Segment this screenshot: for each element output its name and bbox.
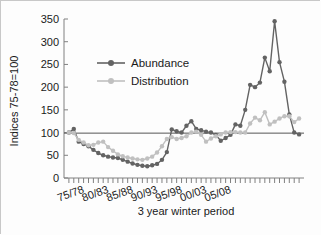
data-point-distribution bbox=[121, 154, 125, 158]
data-point-abundance bbox=[135, 163, 139, 167]
legend-marker-abundance bbox=[108, 60, 114, 66]
data-point-distribution bbox=[189, 130, 193, 134]
data-point-distribution bbox=[130, 156, 134, 160]
data-point-abundance bbox=[145, 164, 149, 168]
data-point-distribution bbox=[155, 150, 159, 154]
data-point-abundance bbox=[130, 161, 134, 165]
data-point-distribution bbox=[204, 139, 208, 143]
data-point-abundance bbox=[106, 154, 110, 158]
data-point-distribution bbox=[72, 131, 76, 135]
data-point-distribution bbox=[282, 114, 286, 118]
data-point-abundance bbox=[111, 155, 115, 159]
data-point-abundance bbox=[204, 129, 208, 133]
data-point-abundance bbox=[72, 127, 76, 131]
data-point-distribution bbox=[199, 133, 203, 137]
y-tick-label: 0 bbox=[53, 172, 59, 184]
data-point-distribution bbox=[76, 138, 80, 142]
y-tick-label: 250 bbox=[41, 58, 59, 70]
data-point-abundance bbox=[199, 128, 203, 132]
data-point-abundance bbox=[253, 85, 257, 89]
y-tick-label: 200 bbox=[41, 81, 59, 93]
data-point-distribution bbox=[277, 116, 281, 120]
y-tick-label: 50 bbox=[47, 149, 59, 161]
data-point-abundance bbox=[268, 69, 272, 73]
data-point-abundance bbox=[96, 151, 100, 155]
data-point-distribution bbox=[111, 149, 115, 153]
data-point-abundance bbox=[258, 80, 262, 84]
data-point-abundance bbox=[292, 130, 296, 134]
data-point-distribution bbox=[258, 118, 262, 122]
y-tick-label: 300 bbox=[41, 36, 59, 48]
data-point-distribution bbox=[81, 140, 85, 144]
data-point-abundance bbox=[223, 136, 227, 140]
data-point-distribution bbox=[170, 135, 174, 139]
data-point-distribution bbox=[272, 119, 276, 123]
data-point-distribution bbox=[145, 156, 149, 160]
data-point-distribution bbox=[228, 130, 232, 134]
data-point-distribution bbox=[91, 143, 95, 147]
y-axis-label: Indices 75-78=100 bbox=[8, 56, 20, 147]
data-point-distribution bbox=[243, 130, 247, 134]
data-point-abundance bbox=[233, 122, 237, 126]
data-point-abundance bbox=[243, 108, 247, 112]
data-point-distribution bbox=[101, 139, 105, 143]
data-point-abundance bbox=[101, 153, 105, 157]
data-point-abundance bbox=[170, 127, 174, 131]
y-tick-label: 350 bbox=[41, 13, 59, 25]
data-point-distribution bbox=[297, 116, 301, 120]
data-point-distribution bbox=[160, 144, 164, 148]
data-point-distribution bbox=[263, 110, 267, 114]
data-point-distribution bbox=[67, 130, 71, 134]
data-point-abundance bbox=[160, 158, 164, 162]
data-point-distribution bbox=[125, 155, 129, 159]
data-point-abundance bbox=[125, 159, 129, 163]
data-point-abundance bbox=[184, 124, 188, 128]
data-point-distribution bbox=[219, 132, 223, 136]
data-point-distribution bbox=[96, 140, 100, 144]
data-point-abundance bbox=[150, 163, 154, 167]
x-axis-title: 3 year winter period bbox=[138, 205, 235, 217]
y-tick-label: 150 bbox=[41, 104, 59, 116]
data-point-abundance bbox=[282, 79, 286, 83]
data-point-distribution bbox=[223, 130, 227, 134]
data-point-abundance bbox=[297, 132, 301, 136]
data-point-distribution bbox=[150, 154, 154, 158]
y-tick-label: 100 bbox=[41, 127, 59, 139]
data-point-distribution bbox=[174, 137, 178, 141]
legend-marker-distribution bbox=[108, 78, 114, 84]
data-point-abundance bbox=[209, 130, 213, 134]
data-point-distribution bbox=[86, 143, 90, 147]
data-point-abundance bbox=[165, 150, 169, 154]
data-point-distribution bbox=[209, 136, 213, 140]
line-chart: Indices 75-78=100 050100150200250300350 … bbox=[1, 1, 321, 235]
data-point-distribution bbox=[135, 157, 139, 161]
data-point-distribution bbox=[106, 145, 110, 149]
data-point-abundance bbox=[179, 130, 183, 134]
data-point-distribution bbox=[292, 120, 296, 124]
legend-label-abundance: Abundance bbox=[131, 57, 189, 69]
data-point-abundance bbox=[140, 164, 144, 168]
data-point-distribution bbox=[194, 129, 198, 133]
data-point-distribution bbox=[238, 130, 242, 134]
data-point-distribution bbox=[165, 137, 169, 141]
data-point-distribution bbox=[287, 114, 291, 118]
data-point-abundance bbox=[272, 19, 276, 23]
data-point-abundance bbox=[174, 129, 178, 133]
data-point-distribution bbox=[268, 122, 272, 126]
data-point-distribution bbox=[233, 130, 237, 134]
data-point-abundance bbox=[263, 55, 267, 59]
data-point-abundance bbox=[219, 139, 223, 143]
data-point-distribution bbox=[248, 121, 252, 125]
data-point-distribution bbox=[140, 158, 144, 162]
data-point-distribution bbox=[184, 134, 188, 138]
data-point-distribution bbox=[179, 136, 183, 140]
data-point-abundance bbox=[155, 162, 159, 166]
data-point-abundance bbox=[189, 119, 193, 123]
data-point-abundance bbox=[91, 148, 95, 152]
data-point-distribution bbox=[116, 152, 120, 156]
data-point-abundance bbox=[248, 83, 252, 87]
legend-label-distribution: Distribution bbox=[131, 75, 189, 87]
data-point-abundance bbox=[238, 124, 242, 128]
data-point-distribution bbox=[214, 134, 218, 138]
